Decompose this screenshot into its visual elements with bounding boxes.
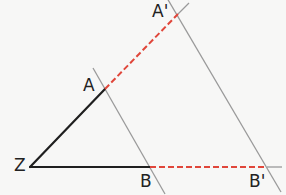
label-b-prime: B' bbox=[249, 173, 265, 190]
ray-za-extension bbox=[178, 3, 189, 14]
parallel-line-a-prime-b-prime bbox=[167, 0, 281, 192]
label-a: A bbox=[83, 77, 95, 94]
diagram-svg bbox=[0, 0, 286, 195]
label-z: Z bbox=[14, 157, 26, 174]
segment-za bbox=[30, 89, 105, 167]
segment-a-a-prime bbox=[105, 14, 178, 89]
diagram-canvas: Z A A' B B' bbox=[0, 0, 286, 195]
label-a-prime: A' bbox=[152, 3, 168, 20]
parallel-line-ab bbox=[93, 68, 165, 194]
label-b: B bbox=[140, 173, 152, 190]
